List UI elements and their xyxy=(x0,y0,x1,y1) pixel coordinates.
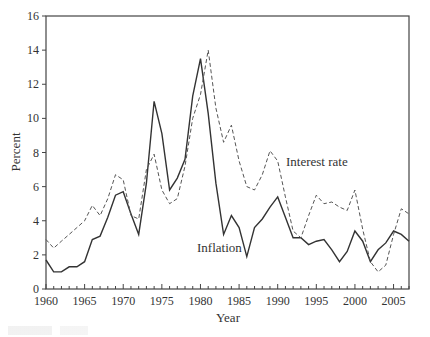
y-axis: 0246810121416 xyxy=(27,9,46,296)
y-tick-label: 6 xyxy=(33,180,39,194)
x-tick-label: 1975 xyxy=(150,294,174,308)
figure-caption-faint xyxy=(8,326,208,335)
series-layer xyxy=(46,50,409,272)
interest-rate-line xyxy=(46,50,409,272)
inflation-label: Inflation xyxy=(197,240,242,255)
y-tick-label: 2 xyxy=(33,248,39,262)
y-tick-label: 16 xyxy=(27,9,39,23)
x-tick-label: 1980 xyxy=(188,294,212,308)
y-tick-label: 10 xyxy=(27,111,39,125)
x-tick-label: 1960 xyxy=(34,294,58,308)
y-tick-label: 14 xyxy=(27,43,39,57)
line-chart: 0246810121416 19601965197019751980198519… xyxy=(0,0,430,337)
x-axis-title: Year xyxy=(216,310,241,325)
x-tick-label: 1970 xyxy=(111,294,135,308)
x-tick-label: 1985 xyxy=(227,294,251,308)
x-tick-label: 2000 xyxy=(343,294,367,308)
y-tick-label: 4 xyxy=(33,214,39,228)
x-tick-label: 2005 xyxy=(382,294,406,308)
x-tick-label: 1990 xyxy=(266,294,290,308)
x-axis: 1960196519701975198019851990199520002005 xyxy=(34,284,409,308)
interest-rate-label: Interest rate xyxy=(286,154,348,169)
y-axis-title: Percent xyxy=(8,132,23,171)
y-tick-label: 12 xyxy=(27,77,39,91)
x-tick-label: 1995 xyxy=(304,294,328,308)
y-tick-label: 8 xyxy=(33,146,39,160)
x-tick-label: 1965 xyxy=(73,294,97,308)
